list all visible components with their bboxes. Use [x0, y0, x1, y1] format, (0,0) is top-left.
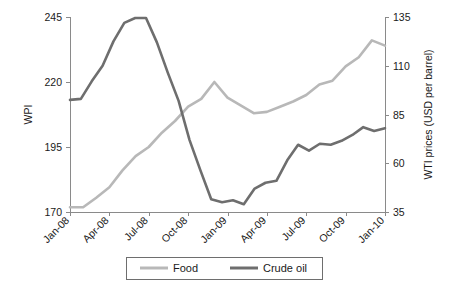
legend-label-food: Food [173, 262, 198, 274]
x-axis-tick-label: Apr-08 [80, 214, 111, 245]
legend-group: FoodCrude oil [127, 258, 323, 280]
x-axis-tick-label: Oct-09 [316, 214, 347, 245]
x-axis-tick-label: Jul-08 [121, 214, 150, 243]
x-axis-tick-label: Oct-08 [159, 214, 190, 245]
series-line-food [70, 40, 385, 207]
right-axis-tick-label: 35 [393, 206, 405, 218]
right-axis-tick-label: 135 [393, 11, 411, 23]
x-axis-tick-label: Jan-08 [40, 214, 71, 245]
x-axis-tick-label: Jan-09 [198, 214, 229, 245]
line-chart: 170195220245356085110135Jan-08Apr-08Jul-… [0, 0, 450, 287]
left-axis-tick-label: 220 [44, 76, 62, 88]
chart-container: 170195220245356085110135Jan-08Apr-08Jul-… [0, 0, 450, 287]
axes-group: 170195220245356085110135Jan-08Apr-08Jul-… [22, 11, 434, 245]
right-axis-tick-label: 110 [393, 60, 410, 72]
left-axis-tick-label: 245 [44, 11, 62, 23]
left-axis-tick-label: 195 [44, 141, 62, 153]
x-axis-tick-label: Jan-10 [355, 214, 386, 245]
legend-label-crude-oil: Crude oil [263, 262, 307, 274]
left-axis-title: WPI [22, 105, 34, 125]
right-axis-tick-label: 85 [393, 109, 405, 121]
x-axis-tick-label: Apr-09 [238, 214, 269, 245]
right-axis-title: WTI prices (USD per barrel) [422, 49, 434, 179]
x-axis-tick-label: Jul-09 [279, 214, 308, 243]
series-group [70, 18, 385, 207]
right-axis-tick-label: 60 [393, 157, 405, 169]
